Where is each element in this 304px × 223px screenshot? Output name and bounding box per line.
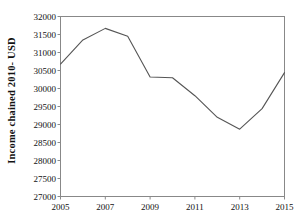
line-chart: Income chained 2010- USD 270002750028000… (0, 0, 304, 223)
plot-frame-border (61, 17, 285, 197)
income-line-series (61, 28, 285, 129)
plot-area (0, 0, 304, 223)
